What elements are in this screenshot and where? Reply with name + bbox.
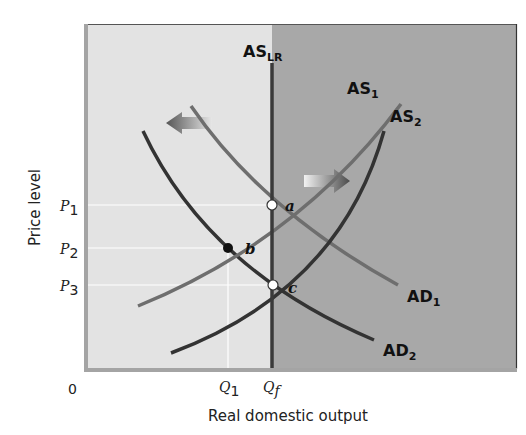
- x-axis-title: Real domestic output: [208, 407, 368, 425]
- y-ticks: P1 P2 P3: [59, 198, 78, 298]
- point-a: [267, 200, 277, 210]
- origin-tick: 0: [68, 381, 77, 397]
- point-b: [223, 243, 233, 253]
- plot-area: [84, 24, 517, 372]
- ad-as-diagram: a b c ASLR AS1 AS2 AD1 AD2 P1 P2 P3 0 Q1…: [0, 0, 526, 435]
- point-a-label: a: [285, 197, 295, 215]
- point-c-label: c: [288, 279, 297, 297]
- p3-tick: P3: [59, 278, 78, 298]
- p2-tick: P2: [59, 241, 78, 261]
- region-right: [272, 25, 516, 369]
- point-c: [268, 280, 278, 290]
- qf-tick: Qf: [263, 379, 282, 399]
- point-b-label: b: [245, 240, 256, 258]
- q1-tick: Q1: [219, 379, 239, 399]
- y-axis-title: Price level: [26, 169, 44, 246]
- x-ticks: 0 Q1 Qf: [68, 379, 282, 399]
- p1-tick: P1: [59, 198, 78, 218]
